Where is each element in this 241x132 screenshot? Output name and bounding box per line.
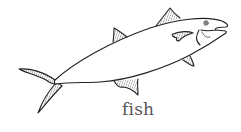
fish-illustration — [0, 0, 241, 132]
eye — [204, 21, 209, 26]
tail-fin-upper — [19, 69, 55, 84]
tail-fin-lower — [38, 84, 62, 113]
anal-fin — [114, 79, 138, 95]
fish-body — [19, 8, 228, 113]
caption: fish — [122, 99, 154, 119]
